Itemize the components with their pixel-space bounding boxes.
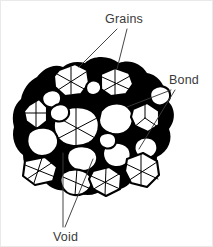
grain xyxy=(50,104,69,121)
figure-root: Grains Bond Void xyxy=(0,0,213,247)
grain xyxy=(27,128,58,156)
callout-label-void: Void xyxy=(53,230,78,244)
grain xyxy=(86,81,101,95)
microstructure-figure: Grains Bond Void xyxy=(1,1,213,247)
grain xyxy=(125,153,159,187)
callout-label-grains: Grains xyxy=(105,12,143,26)
grain xyxy=(101,68,133,96)
grain xyxy=(54,64,89,96)
callout-label-bond: Bond xyxy=(169,73,199,87)
grain xyxy=(99,133,116,149)
grain xyxy=(99,104,133,135)
